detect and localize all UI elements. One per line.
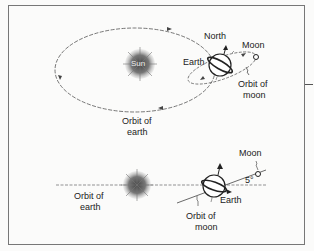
bottom-orbit-earth-label-1: Orbit of [74,191,104,201]
bottom-moon-label: Moon [239,148,262,158]
top-orbit-moon-label-1: Orbit of [238,79,268,89]
bottom-sun-icon [121,169,153,201]
orbit-diagram [0,0,314,251]
bottom-orbit-moon-label-2: moon [195,222,218,232]
top-sun-label: Sun [131,59,145,69]
bottom-moon-icon [256,172,261,177]
bottom-orbit-moon-label-1: Orbit of [186,211,216,221]
bottom-moon-orbit-pointer [197,196,198,206]
top-orbit-moon-label-2: moon [243,90,266,100]
top-moon-orbit-pointer [246,67,249,75]
top-north-label: North [204,31,226,41]
top-moon-icon [254,55,259,60]
bottom-angle-label: 5° [245,175,254,185]
top-orbit-earth-label-1: Orbit of [122,116,152,126]
top-earth-icon [206,45,234,80]
top-orbit-earth-label-2: earth [127,127,148,137]
top-moon-label: Moon [242,40,265,50]
top-earth-label: Earth [183,57,205,67]
bottom-earth-label: Earth [220,195,242,205]
bottom-orbit-earth-label-2: earth [80,202,101,212]
bottom-moon-pointer [256,161,258,170]
